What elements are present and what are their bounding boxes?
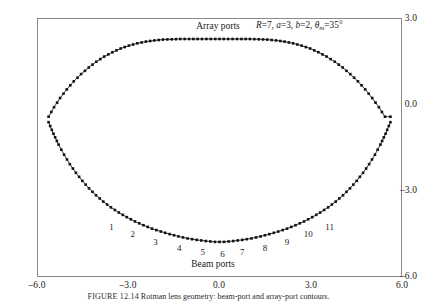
data-point-marker <box>78 176 81 179</box>
data-point-marker <box>87 66 90 69</box>
y-tick-label: 0.0 <box>383 99 417 109</box>
data-point-marker <box>130 218 133 221</box>
data-point-marker <box>188 38 191 41</box>
series-line <box>49 39 391 117</box>
data-point-marker <box>210 38 213 41</box>
beam-port-number: 7 <box>235 248 249 257</box>
data-point-marker <box>183 38 186 41</box>
data-point-marker <box>56 140 59 143</box>
data-point-marker <box>317 51 320 54</box>
data-point-marker <box>69 84 72 87</box>
data-point-marker <box>59 97 62 100</box>
beam-port-number: 9 <box>280 238 294 247</box>
x-tick-label: 3.0 <box>288 280 334 290</box>
data-point-marker <box>91 63 94 66</box>
data-point-marker <box>51 129 54 132</box>
data-point-marker <box>214 38 217 41</box>
beam-port-number: 10 <box>301 230 315 239</box>
data-point-marker <box>84 183 87 186</box>
data-point-marker <box>227 38 230 41</box>
data-point-marker <box>110 206 113 209</box>
y-tick-label: 3.0 <box>383 13 417 23</box>
data-point-marker <box>145 40 148 43</box>
data-point-marker <box>362 172 365 175</box>
data-point-marker <box>353 76 356 79</box>
parameter-annotation: R=7, a=3, b=2, θm=35° <box>256 20 343 34</box>
figure-caption-text: Rotman lens geometry: beam-port and arra… <box>141 292 330 301</box>
data-point-marker <box>294 224 297 227</box>
data-point-marker <box>173 234 176 237</box>
data-point-marker <box>47 121 50 124</box>
data-point-marker <box>95 194 98 197</box>
data-point-marker <box>338 197 341 200</box>
data-point-marker <box>63 153 66 156</box>
beam-port-number: 2 <box>126 230 140 239</box>
curve-layer <box>49 39 391 242</box>
data-point-marker <box>128 44 131 47</box>
data-point-marker <box>262 38 265 41</box>
data-point-marker <box>341 66 344 69</box>
beam-port-number: 4 <box>172 244 186 253</box>
data-point-marker <box>191 238 194 241</box>
data-point-marker <box>309 47 312 50</box>
data-point-marker <box>364 88 367 91</box>
data-point-marker <box>115 49 118 52</box>
data-point-marker <box>72 167 75 170</box>
data-point-marker <box>384 132 387 135</box>
data-point-marker <box>218 241 221 244</box>
data-point-marker <box>241 239 244 242</box>
data-point-marker <box>236 38 239 41</box>
data-point-marker <box>288 41 291 44</box>
data-point-marker <box>102 200 105 203</box>
data-point-marker <box>186 237 189 240</box>
data-point-marker <box>244 38 247 41</box>
data-point-marker <box>57 143 60 146</box>
data-point-marker <box>255 236 258 239</box>
data-point-marker <box>200 239 203 242</box>
data-point-marker <box>349 187 352 190</box>
data-point-marker <box>103 55 106 58</box>
data-point-marker <box>146 226 149 229</box>
data-point-marker <box>123 46 126 49</box>
data-point-marker <box>106 203 109 206</box>
data-point-marker <box>142 224 145 227</box>
data-point-marker <box>49 125 52 128</box>
data-point-marker <box>151 227 154 230</box>
data-point-marker <box>125 216 128 219</box>
data-point-marker <box>107 53 110 56</box>
data-point-marker <box>250 237 253 240</box>
data-point-marker <box>272 232 275 235</box>
data-point-marker <box>360 84 363 87</box>
data-point-marker <box>236 239 239 242</box>
data-point-marker <box>321 53 324 56</box>
beam-ports-label: Beam ports <box>158 259 268 270</box>
data-point-marker <box>218 38 221 41</box>
data-point-marker <box>327 206 330 209</box>
data-point-marker <box>379 143 382 146</box>
data-point-marker <box>376 148 379 151</box>
figure-caption: FIGURE 12.14 Rotman lens geometry: beam-… <box>0 292 417 305</box>
data-point-marker <box>333 60 336 63</box>
data-point-marker <box>290 226 293 229</box>
data-point-marker <box>323 209 326 212</box>
data-point-marker <box>378 106 381 109</box>
data-point-marker <box>47 115 50 118</box>
data-point-marker <box>388 125 391 128</box>
data-point-marker <box>331 203 334 206</box>
data-point-marker <box>81 180 84 183</box>
figure-number: FIGURE 12.14 <box>88 292 139 301</box>
data-point-marker <box>231 38 234 41</box>
data-point-marker <box>342 194 345 197</box>
marker-layer <box>47 38 391 243</box>
y-tick-label: –3.0 <box>383 185 417 195</box>
data-point-marker <box>329 58 332 61</box>
data-point-marker <box>54 136 57 139</box>
data-point-marker <box>111 51 114 54</box>
x-tick-label: 0.0 <box>196 280 242 290</box>
data-point-marker <box>50 111 53 114</box>
data-point-marker <box>253 38 256 41</box>
data-point-marker <box>170 38 173 41</box>
data-point-marker <box>359 176 362 179</box>
data-point-marker <box>53 106 56 109</box>
data-point-marker <box>62 92 65 95</box>
